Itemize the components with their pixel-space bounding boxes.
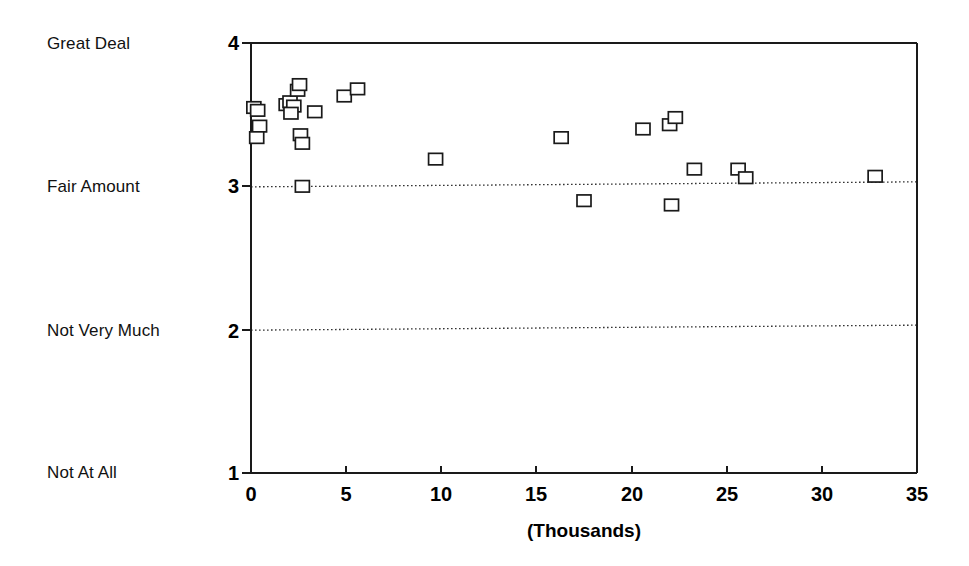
data-markers-group (247, 79, 882, 211)
data-point (351, 83, 365, 95)
plot-area (0, 0, 969, 566)
data-point (554, 132, 568, 144)
gridline-y-3 (251, 182, 917, 187)
data-point (295, 181, 309, 193)
data-point (337, 90, 351, 102)
axis-frame (251, 43, 917, 473)
data-point (868, 171, 882, 183)
data-point (250, 132, 264, 144)
data-point (308, 106, 322, 118)
data-point (284, 107, 298, 119)
data-point (429, 153, 443, 165)
data-point (739, 172, 753, 184)
data-point (293, 79, 307, 91)
data-point (665, 199, 679, 211)
data-point (687, 163, 701, 175)
scatter-chart: Great Deal Fair Amount Not Very Much Not… (0, 0, 969, 566)
gridline-y-2 (251, 325, 917, 330)
data-point (295, 138, 309, 150)
data-point (253, 120, 267, 132)
data-point (251, 105, 265, 117)
data-point (636, 123, 650, 135)
data-point (668, 112, 682, 124)
data-point (577, 195, 591, 207)
tick-marks-group (242, 43, 822, 473)
